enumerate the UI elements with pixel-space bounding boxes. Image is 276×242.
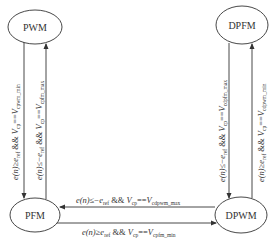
state-diagram: PWM DPFM PFM DPWM e(n)≥eref && Vcp==Vcpw…: [0, 0, 276, 242]
edge-label-pfm-to-dpwm: e(n)≥eref && Vcp==Vcpfm_min: [82, 227, 176, 238]
edge-label-dpfm-to-dpwm: e(n)≤−eref && Vcp==Vcdpfm_max: [217, 80, 228, 182]
node-dpwm: DPWM: [215, 197, 267, 233]
node-label-dpfm: DPFM: [228, 20, 255, 31]
node-label-pwm: PWM: [23, 22, 47, 33]
node-label-dpwm: DPWM: [225, 210, 256, 221]
node-dpfm: DPFM: [216, 6, 268, 44]
node-pfm: PFM: [10, 198, 60, 232]
edge-label-pfm-to-pwm: e(n)≤−eref && Vcp==Vcpfm_max: [34, 80, 45, 180]
edge-label-dpwm-to-pfm: e(n)≤−eref && Vcp==Vcdpwm_max: [76, 195, 180, 206]
node-label-pfm: PFM: [25, 210, 45, 221]
edge-label-pwm-to-pfm: e(n)≥eref && Vcp==Vcpwm_min: [10, 84, 21, 180]
edge-label-dpwm-to-dpfm: e(n)≥eref && Vcp==Vcdpwm_min: [256, 83, 267, 182]
node-pwm: PWM: [8, 10, 62, 44]
